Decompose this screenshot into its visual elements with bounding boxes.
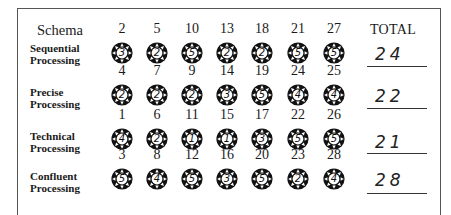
score-marker: 2 bbox=[216, 42, 238, 64]
score-marker: 5 bbox=[251, 84, 273, 106]
score-marker: 4 bbox=[323, 168, 345, 190]
row-label-line2: Processing bbox=[30, 142, 80, 154]
score-marker: 5 bbox=[111, 168, 133, 190]
score-value: 2 bbox=[146, 84, 168, 106]
total-underline bbox=[367, 66, 427, 67]
score-value: 2 bbox=[146, 42, 168, 64]
item-number: 8 bbox=[142, 148, 172, 162]
score-value: 4 bbox=[287, 84, 309, 106]
item-number: 7 bbox=[142, 64, 172, 78]
item-number: 11 bbox=[177, 108, 207, 122]
item-number: 1 bbox=[107, 108, 137, 122]
item-number: 13 bbox=[212, 22, 242, 36]
item-number: 12 bbox=[177, 148, 207, 162]
score-value: 2 bbox=[287, 168, 309, 190]
schema-header: Schema bbox=[37, 22, 83, 39]
score-value: 2 bbox=[251, 42, 273, 64]
total-underline bbox=[367, 153, 427, 154]
row-label-line2: Processing bbox=[30, 182, 80, 194]
row-label-2: TechnicalProcessing bbox=[30, 130, 80, 154]
score-value: 3 bbox=[216, 168, 238, 190]
score-marker: 2 bbox=[181, 84, 203, 106]
score-marker: 2 bbox=[111, 84, 133, 106]
row-total: 28 bbox=[375, 170, 425, 190]
score-marker: 2 bbox=[251, 42, 273, 64]
score-marker: 5 bbox=[287, 42, 309, 64]
score-marker: 2 bbox=[287, 168, 309, 190]
item-number: 20 bbox=[247, 148, 277, 162]
row-total: 24 bbox=[375, 44, 425, 64]
score-value: 4 bbox=[146, 168, 168, 190]
row-label-line1: Confluent bbox=[30, 170, 80, 182]
item-number: 3 bbox=[107, 148, 137, 162]
item-number: 14 bbox=[212, 64, 242, 78]
score-value: 2 bbox=[181, 84, 203, 106]
score-marker: 5 bbox=[251, 168, 273, 190]
score-marker: 2 bbox=[146, 84, 168, 106]
score-value: 5 bbox=[111, 168, 133, 190]
score-value: 5 bbox=[181, 42, 203, 64]
item-number: 2 bbox=[107, 22, 137, 36]
item-number: 9 bbox=[177, 64, 207, 78]
item-number: 24 bbox=[283, 64, 313, 78]
score-value: 2 bbox=[216, 42, 238, 64]
item-number: 10 bbox=[177, 22, 207, 36]
score-marker: 4 bbox=[287, 84, 309, 106]
score-marker: 4 bbox=[146, 168, 168, 190]
score-value: 3 bbox=[111, 42, 133, 64]
item-number: 28 bbox=[319, 148, 349, 162]
row-total: 22 bbox=[375, 86, 425, 106]
score-value: 5 bbox=[251, 168, 273, 190]
item-number: 18 bbox=[247, 22, 277, 36]
total-header: TOTAL bbox=[370, 22, 416, 38]
score-value: 4 bbox=[323, 168, 345, 190]
score-marker: 5 bbox=[323, 42, 345, 64]
score-value: 2 bbox=[111, 84, 133, 106]
total-underline bbox=[367, 193, 427, 194]
score-marker: 2 bbox=[146, 42, 168, 64]
item-number: 27 bbox=[319, 22, 349, 36]
score-marker: 4 bbox=[323, 84, 345, 106]
item-number: 15 bbox=[212, 108, 242, 122]
item-number: 23 bbox=[283, 148, 313, 162]
row-label-line1: Technical bbox=[30, 130, 80, 142]
score-value: 5 bbox=[251, 84, 273, 106]
score-marker: 3 bbox=[216, 84, 238, 106]
item-number: 22 bbox=[283, 108, 313, 122]
score-marker: 3 bbox=[216, 168, 238, 190]
row-label-1: PreciseProcessing bbox=[30, 86, 80, 110]
item-number: 25 bbox=[319, 64, 349, 78]
score-value: 5 bbox=[287, 42, 309, 64]
item-number: 19 bbox=[247, 64, 277, 78]
score-marker: 5 bbox=[181, 42, 203, 64]
row-label-0: SequentialProcessing bbox=[30, 42, 80, 66]
score-marker: 5 bbox=[181, 168, 203, 190]
item-number: 4 bbox=[107, 64, 137, 78]
score-value: 5 bbox=[181, 168, 203, 190]
row-label-line1: Sequential bbox=[30, 42, 80, 54]
total-underline bbox=[367, 108, 427, 109]
score-value: 3 bbox=[216, 84, 238, 106]
row-label-line2: Processing bbox=[30, 54, 80, 66]
item-number: 26 bbox=[319, 108, 349, 122]
score-marker: 3 bbox=[111, 42, 133, 64]
row-total: 21 bbox=[375, 132, 425, 152]
row-label-line1: Precise bbox=[30, 86, 80, 98]
score-value: 5 bbox=[323, 42, 345, 64]
row-label-line2: Processing bbox=[30, 98, 80, 110]
row-label-3: ConfluentProcessing bbox=[30, 170, 80, 194]
item-number: 21 bbox=[283, 22, 313, 36]
item-number: 5 bbox=[142, 22, 172, 36]
item-number: 16 bbox=[212, 148, 242, 162]
item-number: 17 bbox=[247, 108, 277, 122]
item-number: 6 bbox=[142, 108, 172, 122]
score-value: 4 bbox=[323, 84, 345, 106]
